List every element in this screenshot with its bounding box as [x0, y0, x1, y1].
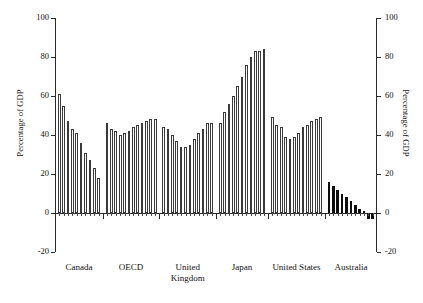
bar	[180, 147, 183, 213]
x-minor-tick	[364, 213, 365, 216]
x-minor-tick	[59, 213, 60, 216]
bar	[128, 131, 131, 213]
y-tick-right	[377, 18, 381, 19]
bar	[58, 94, 61, 213]
bar	[202, 129, 205, 213]
y-tick-label-right: 100	[385, 13, 423, 22]
bar	[263, 49, 266, 213]
bar	[280, 127, 283, 213]
x-minor-tick	[190, 213, 191, 216]
bar	[250, 57, 253, 213]
y-tick-left	[51, 135, 55, 136]
x-minor-tick	[264, 213, 265, 216]
bar	[93, 168, 96, 213]
x-minor-tick	[151, 213, 152, 216]
bar	[84, 153, 87, 213]
bar	[132, 127, 135, 213]
bar	[306, 125, 309, 213]
x-category-label-australia: Australia	[306, 262, 396, 273]
x-group-boundary-tick	[216, 213, 217, 219]
bar	[297, 133, 300, 213]
y-tick-right	[377, 135, 381, 136]
bar	[71, 129, 74, 213]
x-minor-tick	[194, 213, 195, 216]
y-tick-right	[377, 213, 381, 214]
x-minor-tick	[281, 213, 282, 216]
bar	[75, 133, 78, 213]
y-tick-right	[377, 96, 381, 97]
bar	[114, 131, 117, 213]
y-tick-right	[377, 174, 381, 175]
bar	[175, 141, 178, 213]
y-tick-label-left: 0	[9, 208, 49, 217]
y-axis-title-left: Percentage of GDP	[15, 68, 25, 178]
x-minor-tick	[316, 213, 317, 216]
bar	[62, 106, 65, 213]
x-minor-tick	[207, 213, 208, 216]
bar	[254, 51, 257, 213]
y-tick-label-right: -20	[385, 247, 423, 256]
x-minor-tick	[242, 213, 243, 216]
bar	[162, 127, 165, 213]
x-minor-tick	[290, 213, 291, 216]
x-minor-tick	[272, 213, 273, 216]
x-minor-tick	[307, 213, 308, 216]
y-axis-title-right: Percentage of GDP	[401, 68, 411, 178]
x-group-boundary-tick	[103, 213, 104, 219]
bar	[275, 125, 278, 213]
bar	[119, 135, 122, 213]
y-tick-label-left: 60	[9, 91, 49, 100]
x-minor-tick	[68, 213, 69, 216]
x-minor-tick	[77, 213, 78, 216]
x-minor-tick	[142, 213, 143, 216]
bar	[354, 205, 357, 213]
bar	[336, 190, 339, 213]
x-minor-tick	[111, 213, 112, 216]
x-minor-tick	[107, 213, 108, 216]
x-minor-tick	[229, 213, 230, 216]
x-minor-tick	[312, 213, 313, 216]
x-group-boundary-tick	[325, 213, 326, 219]
bar	[310, 121, 313, 213]
x-minor-tick	[181, 213, 182, 216]
bar	[328, 182, 331, 213]
bar	[223, 112, 226, 213]
x-minor-tick	[321, 213, 322, 216]
y-tick-label-right: 40	[385, 130, 423, 139]
bar	[141, 123, 144, 213]
x-minor-tick	[355, 213, 356, 216]
x-minor-tick	[155, 213, 156, 216]
bar	[106, 123, 109, 213]
x-minor-tick	[238, 213, 239, 216]
bar	[289, 139, 292, 213]
x-minor-tick	[329, 213, 330, 216]
bar	[271, 117, 274, 213]
bar	[345, 197, 348, 213]
bar	[184, 147, 187, 213]
y-tick-left	[51, 174, 55, 175]
x-minor-tick	[360, 213, 361, 216]
bar	[241, 77, 244, 214]
x-minor-tick	[333, 213, 334, 216]
x-minor-tick	[125, 213, 126, 216]
x-minor-tick	[81, 213, 82, 216]
plot-area: -20020406080100 -20020406080100	[55, 18, 377, 252]
bar	[145, 121, 148, 213]
x-minor-tick	[299, 213, 300, 216]
chart-figure: Percentage of GDP Percentage of GDP -200…	[0, 0, 423, 303]
y-tick-label-left: -20	[9, 247, 49, 256]
x-group-boundary-tick	[159, 213, 160, 219]
bar	[193, 139, 196, 213]
bar	[302, 127, 305, 213]
y-axis-left-spine	[55, 18, 56, 252]
y-tick-label-left: 40	[9, 130, 49, 139]
bar	[228, 104, 231, 213]
x-minor-tick	[203, 213, 204, 216]
bar	[232, 96, 235, 213]
x-minor-tick	[94, 213, 95, 216]
y-tick-right	[377, 57, 381, 58]
bar	[206, 123, 209, 213]
bar	[154, 119, 157, 213]
x-minor-tick	[129, 213, 130, 216]
x-minor-tick	[303, 213, 304, 216]
